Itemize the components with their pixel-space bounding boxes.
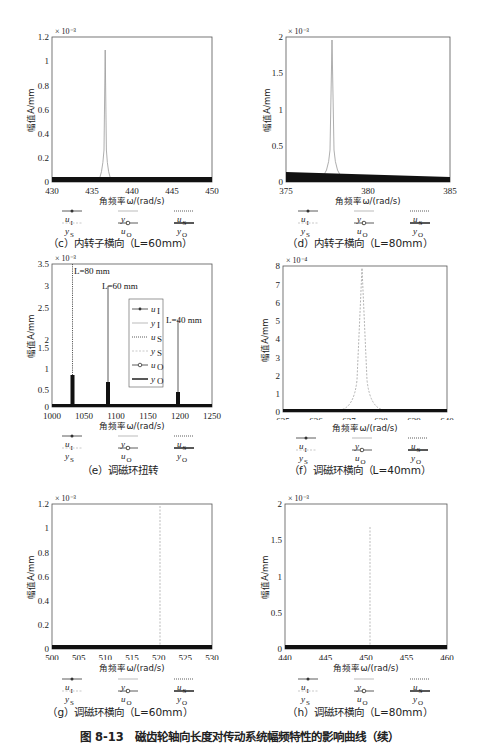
chart-g: × 10⁻³ 0 0.2 0.4 0.6 0.8 1 1.2 500 505 5… — [0, 490, 240, 660]
x-ticks: 635 636 637 638 639 640 — [276, 416, 454, 420]
svg-text:500: 500 — [45, 653, 59, 660]
svg-text:1000: 1000 — [43, 411, 62, 420]
legend-item-uO: uO — [118, 688, 138, 698]
legend-d: uI yI uS yS uO yO — [298, 208, 458, 232]
chart-c: × 10⁻³ 0 0.2 0.4 0.6 0.8 1 1.2 430 435 4… — [0, 0, 240, 200]
legend-item-uO: uO — [118, 220, 138, 230]
x-ticks: 440 445 450 455 460 — [278, 653, 454, 660]
legend-item-yS: yS — [62, 445, 82, 455]
svg-text:1100: 1100 — [107, 411, 125, 420]
y-multiplier: × 10⁻³ — [288, 27, 310, 36]
panel-e: × 10⁻³ 0 0.5 1 1.5 2 2.5 3 3.5 1000 1050… — [0, 250, 240, 500]
legend-item-yO: yO — [410, 688, 430, 698]
caption-e: （e）调磁环扭转 — [0, 462, 240, 477]
series-band — [283, 409, 447, 412]
legend-item-yI: yI — [354, 676, 374, 686]
svg-text:0.5: 0.5 — [271, 608, 283, 618]
y-multiplier: × 10⁻⁴ — [286, 256, 308, 265]
svg-text:y: y — [150, 346, 155, 356]
y-ticks: 0 1 2 3 4 5 6 7 8 — [276, 261, 281, 417]
legend-item-yI: yI — [352, 435, 372, 445]
svg-text:2: 2 — [278, 499, 283, 509]
legend-f: uI yI uS yS uO yO — [296, 435, 456, 459]
svg-text:S: S — [157, 348, 162, 358]
svg-text:7: 7 — [276, 280, 281, 290]
x-axis-label: 角频率ω/(rad/s) — [335, 196, 400, 206]
legend-item-yI: yI — [118, 433, 138, 443]
legend-item-uS: uS — [408, 435, 428, 445]
legend-item-yO: yO — [174, 220, 194, 230]
chart-f: × 10⁻⁴ 0 1 2 3 4 5 6 7 8 635 636 637 638… — [240, 250, 479, 420]
series-band — [52, 404, 212, 407]
svg-text:639: 639 — [407, 416, 421, 420]
legend-item-uO: uO — [118, 445, 138, 455]
svg-text:1150: 1150 — [139, 411, 157, 420]
y-ticks: 0 0.2 0.4 0.6 0.8 1 1.2 — [38, 32, 50, 187]
legend-h: uI yI uS yS uO yO — [298, 676, 458, 700]
svg-text:0.6: 0.6 — [38, 572, 50, 582]
svg-text:515: 515 — [125, 653, 139, 660]
legend-item-uS: uS — [174, 676, 194, 686]
chart-e: × 10⁻³ 0 0.5 1 1.5 2 2.5 3 3.5 1000 1050… — [0, 250, 240, 420]
y-axis-label: 幅值A/mm — [26, 555, 36, 598]
svg-text:440: 440 — [278, 653, 292, 660]
svg-text:O: O — [157, 362, 164, 372]
svg-text:2: 2 — [45, 335, 50, 345]
legend-item-yO: yO — [174, 688, 194, 698]
legend-item-uO: uO — [352, 447, 372, 457]
legend-item-yS: yS — [62, 688, 82, 698]
svg-text:y: y — [150, 374, 155, 384]
svg-text:530: 530 — [205, 653, 219, 660]
svg-text:0.8: 0.8 — [38, 548, 50, 558]
svg-text:u: u — [151, 332, 156, 342]
svg-text:1: 1 — [45, 56, 50, 66]
svg-text:455: 455 — [400, 653, 414, 660]
svg-text:I: I — [157, 320, 160, 330]
svg-text:u: u — [151, 360, 156, 370]
legend-item-yS: yS — [298, 688, 318, 698]
x-axis-label: 角频率ω/(rad/s) — [332, 423, 397, 433]
legend-item-yI: yI — [354, 208, 374, 218]
y-axis-label: 幅值A/mm — [260, 318, 270, 361]
legend-e-inside: u I y I u S y S u O y O — [129, 299, 164, 387]
x-axis-label: 角频率ω/(rad/s) — [333, 663, 398, 673]
chart-h: × 10⁻³ 0 0.5 1 1.5 2 440 445 450 455 460… — [240, 490, 479, 660]
y-multiplier: × 10⁻³ — [288, 494, 310, 503]
legend-item-uI: uI — [298, 208, 318, 218]
legend-item-uS: uS — [410, 208, 430, 218]
y-axis-label: 幅值A/mm — [26, 314, 36, 357]
caption-c: （c）内转子横向（L=60mm） — [0, 235, 240, 250]
caption-h: （h）调磁环横向（L=80mm） — [240, 704, 479, 719]
legend-item-uS: uS — [410, 676, 430, 686]
svg-text:3: 3 — [276, 353, 281, 363]
y-multiplier: × 10⁻³ — [55, 494, 77, 503]
x-axis-label: 角频率ω/(rad/s) — [99, 663, 164, 673]
svg-text:1.2: 1.2 — [38, 499, 49, 509]
legend-g: uI yI uS yS uO yO — [62, 676, 222, 700]
annotation-L80: L=80 mm — [74, 266, 110, 276]
svg-text:638: 638 — [374, 416, 388, 420]
x-axis-label: 角频率ω/(rad/s) — [99, 196, 164, 206]
x-ticks: 500 505 510 515 520 525 530 — [45, 653, 219, 660]
y-ticks: 0 0.5 1 1.5 2 — [272, 32, 284, 187]
svg-text:2.5: 2.5 — [38, 303, 50, 313]
legend-item-yI: yI — [118, 208, 138, 218]
svg-text:3.5: 3.5 — [38, 259, 50, 269]
figure-title: 图 8-13 磁齿轮轴向长度对传动系统幅频特性的影响曲线（续） — [0, 728, 479, 744]
series-band — [52, 645, 212, 649]
legend-e: uI yI uS yS uO yO — [62, 433, 222, 457]
legend-item-yO: yO — [408, 447, 428, 457]
svg-text:450: 450 — [359, 653, 373, 660]
legend-item-yO: yO — [410, 220, 430, 230]
legend-item-uS: uS — [174, 433, 194, 443]
svg-text:S: S — [157, 334, 162, 344]
svg-text:3: 3 — [45, 281, 50, 291]
svg-text:1: 1 — [45, 364, 50, 374]
legend-item-uI: uI — [298, 676, 318, 686]
y-ticks: 0 0.2 0.4 0.6 0.8 1 1.2 — [38, 499, 50, 654]
y-axis-label: 幅值A/mm — [260, 555, 270, 598]
panel-f: × 10⁻⁴ 0 1 2 3 4 5 6 7 8 635 636 637 638… — [240, 250, 479, 500]
svg-text:0.2: 0.2 — [38, 153, 49, 163]
svg-text:0.2: 0.2 — [38, 620, 49, 630]
y-axis-label: 幅值A/mm — [262, 88, 272, 131]
